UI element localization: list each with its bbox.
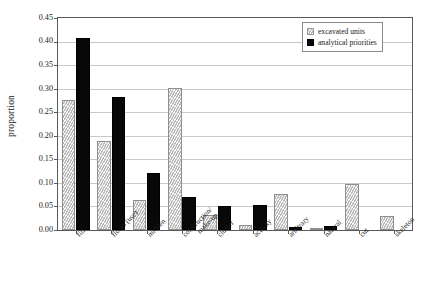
legend-swatch-analytical-priorities-icon — [307, 39, 314, 46]
y-axis-title: proportion — [2, 0, 20, 231]
y-axis-title-text: proportion — [6, 94, 16, 136]
legend-item-analytical-priorities: analytical priorities — [307, 37, 377, 48]
legend-swatch-excavated-units-icon — [307, 28, 314, 35]
y-tick-label: 0.15 — [19, 155, 53, 163]
bar-excavated-units — [345, 184, 359, 230]
bar-excavated-units — [380, 216, 394, 230]
bar-chart-figure: proportion 0.000.050.100.150.200.250.300… — [0, 0, 431, 286]
bar-excavated-units — [274, 194, 288, 230]
bar-excavated-units — [62, 100, 76, 231]
legend-item-excavated-units: excavated units — [307, 26, 377, 37]
y-tick-label: 0.05 — [19, 202, 53, 210]
bar-analytical-priorities — [112, 97, 126, 230]
bar-excavated-units — [97, 141, 111, 231]
y-tick-label: 0.00 — [19, 226, 53, 234]
y-tick-label: 0.40 — [19, 37, 53, 45]
y-tick-label: 0.10 — [19, 179, 53, 187]
bar-excavated-units — [168, 88, 182, 230]
y-tick-label: 0.20 — [19, 132, 53, 140]
chart-legend: excavated units analytical priorities — [302, 22, 383, 52]
y-tick-label: 0.30 — [19, 85, 53, 93]
y-tick-label: 0.25 — [19, 108, 53, 116]
y-tick-label: 0.35 — [19, 61, 53, 69]
bar-excavated-units — [239, 225, 253, 230]
legend-label-excavated-units: excavated units — [318, 27, 365, 36]
y-tick-label: 0.45 — [19, 14, 53, 22]
bar-analytical-priorities — [76, 38, 90, 230]
legend-label-analytical-priorities: analytical priorities — [318, 38, 377, 47]
bar-excavated-units — [310, 228, 324, 230]
